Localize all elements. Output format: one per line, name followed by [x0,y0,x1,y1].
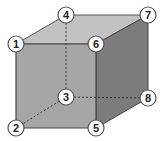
vertex-label: 1 [13,38,19,50]
cube-front-face [16,44,96,128]
vertex-label: 4 [63,9,70,21]
vertex-label: 5 [93,122,99,134]
vertex-node-3: 3 [58,89,74,105]
vertex-node-7: 7 [140,7,156,23]
vertex-node-5: 5 [88,120,104,136]
vertex-node-8: 8 [140,90,156,106]
vertex-label: 2 [13,122,19,134]
vertex-node-1: 1 [8,36,24,52]
vertex-node-6: 6 [88,36,104,52]
vertex-label: 3 [63,91,69,103]
cube-diagram: 1 2 3 4 5 6 7 8 [0,0,163,141]
vertex-node-2: 2 [8,120,24,136]
vertex-node-4: 4 [58,7,74,23]
vertex-label: 8 [145,92,151,104]
vertex-label: 7 [145,9,151,21]
vertex-label: 6 [93,38,99,50]
